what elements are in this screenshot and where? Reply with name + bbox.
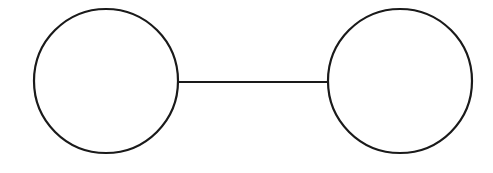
- diagram-canvas: [0, 0, 493, 173]
- node-left-circle: [34, 9, 178, 153]
- node-right-circle: [328, 9, 472, 153]
